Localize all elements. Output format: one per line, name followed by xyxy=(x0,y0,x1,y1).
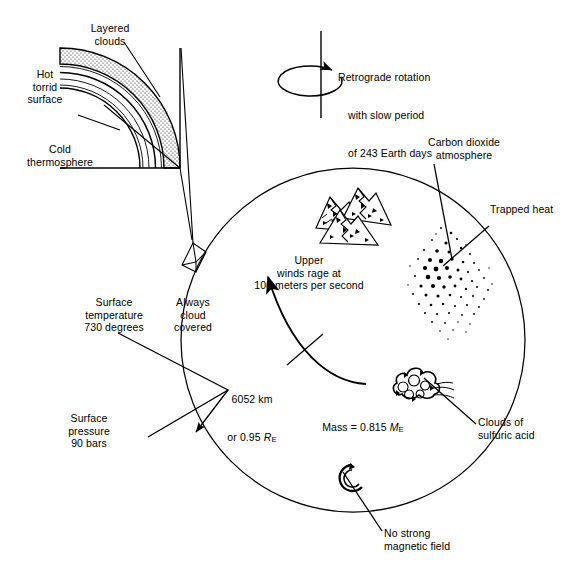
mass-symbol: M xyxy=(390,421,399,433)
mass-prefix: Mass = 0.815 xyxy=(322,421,390,433)
mass-subscript: E xyxy=(399,425,404,434)
label-planet-mass: Mass = 0.815 ME xyxy=(296,421,430,437)
rotation-line-2: with slow period xyxy=(338,109,508,122)
label-cold-thermosphere: Coldthermosphere xyxy=(2,143,118,168)
radius-line-2: or 0.95 RE xyxy=(206,431,298,447)
diagram-canvas: Layeredclouds Hottorridsurface Coldtherm… xyxy=(0,0,563,588)
label-clouds-of-sulfuric-acid: Clouds ofsulfuric acid xyxy=(478,416,563,441)
label-upper-winds: Upperwinds rage at100 meters per second xyxy=(226,254,392,292)
label-surface-temperature: Surfacetemperature730 degrees xyxy=(58,296,170,334)
radius-subscript: E xyxy=(271,435,276,444)
label-layered-clouds: Layeredclouds xyxy=(62,22,158,47)
label-hot-torrid-surface: Hottorridsurface xyxy=(6,68,84,106)
label-carbon-dioxide-atmosphere: Carbon dioxideatmosphere xyxy=(404,136,524,161)
label-no-strong-magnetic-field: No strongmagnetic field xyxy=(384,527,494,552)
rotation-line-1: Retrograde rotation xyxy=(338,71,508,84)
label-retrograde-rotation: Retrograde rotation with slow period of … xyxy=(338,46,508,185)
radius-prefix: or 0.95 xyxy=(227,431,263,443)
label-trapped-heat: Trapped heat xyxy=(490,203,563,216)
label-planet-radius: 6052 km or 0.95 RE xyxy=(206,368,298,472)
radius-line-1: 6052 km xyxy=(206,393,298,406)
label-surface-pressure: Surfacepressure90 bars xyxy=(38,412,140,450)
